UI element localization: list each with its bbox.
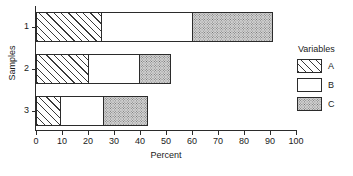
y-axis-tick-label: 3 [16,105,29,116]
x-axis-tick [270,131,271,135]
x-axis-tick [166,131,167,135]
x-axis-tick-label: 10 [50,136,74,147]
y-axis-tick [32,111,36,112]
legend: Variables A B C [297,44,353,116]
bar-segment-c[interactable] [192,13,272,41]
x-axis-title: Percent [36,150,296,160]
y-axis-tick [32,69,36,70]
legend-label-c: C [328,99,335,110]
legend-swatch-a-icon [297,59,322,73]
legend-item-c[interactable]: C [297,97,353,111]
legend-label-a: A [328,61,334,72]
x-axis-tick-label: 30 [102,136,126,147]
x-axis-tick [244,131,245,135]
stacked-bar-sample-1[interactable] [36,12,273,42]
x-axis-tick-label: 20 [76,136,100,147]
plot-area [36,8,296,130]
y-axis-tick [32,27,36,28]
x-axis-tick-label: 90 [258,136,282,147]
x-axis-tick-label: 50 [154,136,178,147]
x-axis-tick-label: 40 [128,136,152,147]
x-axis-tick [218,131,219,135]
bar-segment-b[interactable] [88,55,139,83]
x-axis-tick-label: 60 [180,136,204,147]
legend-label-b: B [328,80,334,91]
x-axis-tick [192,131,193,135]
bar-segment-b[interactable] [60,97,103,125]
legend-swatch-b-icon [297,78,322,92]
x-axis-tick-label: 0 [24,136,48,147]
stacked-bar-chart: 0 10 20 30 40 50 60 70 80 90 100 1 2 3 P… [0,0,353,176]
x-axis-tick-label: 70 [206,136,230,147]
x-axis-tick [88,131,89,135]
x-axis-tick [62,131,63,135]
bar-segment-b[interactable] [101,13,191,41]
y-axis-tick-label: 1 [16,21,29,32]
x-axis-tick [114,131,115,135]
x-axis-tick-label: 80 [232,136,256,147]
y-axis-tick-label: 2 [16,63,29,74]
legend-swatch-c-icon [297,97,322,111]
stacked-bar-sample-3[interactable] [36,96,148,126]
legend-item-a[interactable]: A [297,59,353,73]
legend-title: Variables [298,44,353,55]
bar-segment-c[interactable] [139,55,170,83]
bar-segment-a[interactable] [37,97,60,125]
x-axis-tick [36,131,37,135]
x-axis-tick [140,131,141,135]
y-axis-title: Samples [7,33,17,93]
bar-segment-c[interactable] [103,97,146,125]
stacked-bar-sample-2[interactable] [36,54,171,84]
x-axis-tick-label: 100 [284,136,308,147]
bar-segment-a[interactable] [37,13,101,41]
x-axis-tick [296,131,297,135]
bar-segment-a[interactable] [37,55,88,83]
legend-item-b[interactable]: B [297,78,353,92]
